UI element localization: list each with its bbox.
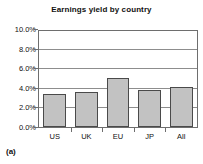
x-tick-label-uk: UK — [71, 132, 103, 142]
x-tick-label-all: All — [165, 132, 197, 142]
figure-caption: (a) — [6, 147, 16, 156]
x-axis-labels: USUKEUJPAll — [39, 132, 197, 144]
bar-slot — [165, 31, 197, 127]
y-tick-label: 2.0% — [0, 104, 36, 112]
bar-us — [43, 94, 66, 127]
y-axis-labels: 0.0%2.0%4.0%6.0%8.0%10.0% — [0, 30, 36, 128]
bar-slot — [71, 31, 103, 127]
bar-slot — [102, 31, 134, 127]
x-tick-label-us: US — [39, 132, 71, 142]
x-tick-label-eu: EU — [102, 132, 134, 142]
figure-panel: Earnings yield by country 0.0%2.0%4.0%6.… — [0, 0, 203, 164]
bar-eu — [107, 78, 130, 127]
y-tick-label: 0.0% — [0, 124, 36, 132]
y-tick-label: 6.0% — [0, 65, 36, 73]
bar-slot — [39, 31, 71, 127]
bar-all — [170, 87, 193, 127]
bar-jp — [138, 90, 161, 127]
chart-title: Earnings yield by country — [0, 5, 203, 14]
x-tick-label-jp: JP — [134, 132, 166, 142]
y-tick-label: 8.0% — [0, 46, 36, 54]
bar-series — [39, 31, 197, 127]
y-tick-label: 4.0% — [0, 85, 36, 93]
bar-slot — [134, 31, 166, 127]
bar-uk — [75, 92, 98, 127]
y-tick-label: 10.0% — [0, 26, 36, 34]
